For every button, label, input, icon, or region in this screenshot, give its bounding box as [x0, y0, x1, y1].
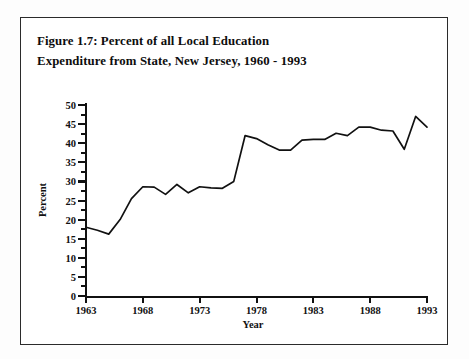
x-tick-label-1973: 1973 — [189, 305, 210, 316]
x-tick-1963 — [85, 296, 87, 303]
y-tick-label-50: 50 — [66, 100, 77, 111]
chart-plot-area: 05101520253035404550 1963196819731978198… — [86, 105, 427, 296]
figure-frame: Figure 1.7: Percent of all Local Educati… — [20, 17, 448, 345]
x-tick-1973 — [199, 296, 201, 303]
y-tick-50 — [78, 104, 86, 106]
figure-page: Figure 1.7: Percent of all Local Educati… — [0, 0, 469, 359]
x-tick-label-1968: 1968 — [132, 305, 153, 316]
x-axis-title: Year — [243, 319, 264, 330]
figure-title-line-1: Figure 1.7: Percent of all Local Educati… — [37, 31, 427, 51]
y-axis-title: Percent — [37, 183, 48, 217]
y-tick-30 — [78, 180, 86, 182]
x-tick-label-1978: 1978 — [246, 305, 267, 316]
y-tick-label-40: 40 — [66, 138, 77, 149]
x-tick-1968 — [142, 296, 144, 303]
y-tick-label-15: 15 — [66, 233, 77, 244]
y-tick-5 — [78, 276, 86, 278]
x-tick-1983 — [312, 296, 314, 303]
y-tick-25 — [78, 200, 86, 202]
y-tick-label-45: 45 — [66, 119, 77, 130]
data-series-line — [86, 105, 427, 296]
figure-title: Figure 1.7: Percent of all Local Educati… — [37, 31, 427, 71]
y-tick-10 — [78, 257, 86, 259]
y-tick-label-30: 30 — [66, 176, 77, 187]
y-tick-15 — [78, 238, 86, 240]
y-tick-label-0: 0 — [71, 291, 76, 302]
x-tick-label-1983: 1983 — [303, 305, 324, 316]
x-tick-label-1988: 1988 — [360, 305, 381, 316]
y-tick-40 — [78, 142, 86, 144]
y-tick-label-10: 10 — [66, 252, 77, 263]
y-tick-45 — [78, 123, 86, 125]
figure-title-line-2: Expenditure from State, New Jersey, 1960… — [37, 51, 427, 71]
x-tick-1978 — [256, 296, 258, 303]
x-tick-1988 — [369, 296, 371, 303]
y-tick-label-25: 25 — [66, 195, 77, 206]
x-tick-label-1963: 1963 — [76, 305, 97, 316]
y-tick-label-35: 35 — [66, 157, 77, 168]
y-tick-label-20: 20 — [66, 214, 77, 225]
y-tick-35 — [78, 161, 86, 163]
x-tick-1993 — [426, 296, 428, 303]
x-tick-label-1993: 1993 — [417, 305, 438, 316]
y-tick-20 — [78, 219, 86, 221]
y-tick-label-5: 5 — [71, 271, 76, 282]
